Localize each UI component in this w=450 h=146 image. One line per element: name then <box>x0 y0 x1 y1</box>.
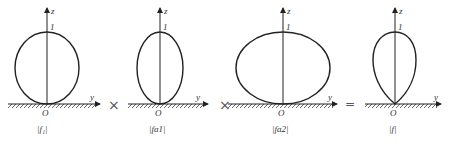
panel-label-fa1: |fa1| <box>149 124 165 134</box>
tick-1-label: 1 <box>163 22 168 32</box>
y-label: y <box>89 92 94 102</box>
panel-f1: z 1 y O |f₁| <box>8 6 100 134</box>
origin-label: O <box>390 108 397 118</box>
z-label: z <box>286 6 291 16</box>
y-label: y <box>195 92 200 102</box>
origin-label: O <box>278 108 285 118</box>
multiply-operator-1: × <box>108 97 120 113</box>
ground-hatch <box>8 104 96 108</box>
panel-label-f: |f| <box>389 124 396 134</box>
ground-hatch <box>365 104 437 108</box>
panel-f: z 1 y O |f| <box>365 6 441 134</box>
origin-label: O <box>42 108 49 118</box>
ground-hatch <box>128 104 204 108</box>
panel-label-f1: |f₁| <box>37 124 48 134</box>
y-label: y <box>433 92 438 102</box>
origin-label: O <box>155 108 162 118</box>
z-label: z <box>50 6 55 16</box>
tick-1-label: 1 <box>398 22 403 32</box>
equals-operator: = <box>345 97 355 111</box>
panel-label-fa2: |fa2| <box>272 124 288 134</box>
y-label: y <box>327 92 332 102</box>
panel-fa2: z 1 y O |fa2| <box>228 6 337 134</box>
z-label: z <box>398 6 403 16</box>
pattern-multiplication-diagram: z 1 y O |f₁| × z 1 y O |fa1| × z 1 y O |… <box>0 0 450 146</box>
tick-1-label: 1 <box>50 22 55 32</box>
tick-1-label: 1 <box>286 22 291 32</box>
panel-fa1: z 1 y O |fa1| <box>128 6 208 134</box>
z-label: z <box>163 6 168 16</box>
